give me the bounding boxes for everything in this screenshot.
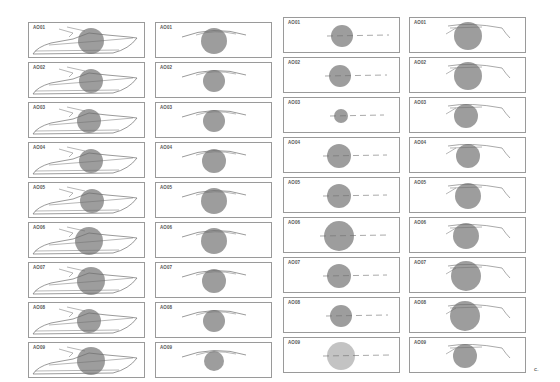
top-view-drawing bbox=[284, 98, 401, 134]
panel-rear-view-ao03: AO03 bbox=[409, 97, 526, 133]
panel-front-view-ao01: AO01 bbox=[155, 22, 272, 58]
panel-top-view-ao02: AO02 bbox=[283, 57, 400, 93]
top-view-drawing bbox=[284, 218, 401, 254]
side-view-boat-drawing bbox=[29, 23, 146, 59]
top-view-drawing bbox=[284, 258, 401, 294]
top-view-drawing bbox=[284, 298, 401, 334]
front-view-drawing bbox=[156, 223, 273, 259]
panel-front-view-ao02: AO02 bbox=[155, 62, 272, 98]
top-view-drawing bbox=[284, 58, 401, 94]
panel-rear-view-ao02: AO02 bbox=[409, 57, 526, 93]
top-view-drawing bbox=[284, 138, 401, 174]
top-view-drawing bbox=[284, 338, 401, 374]
panel-rear-view-ao08: AO08 bbox=[409, 297, 526, 333]
figure-panel-letter: c. bbox=[534, 366, 539, 372]
panel-rear-view-ao04: AO04 bbox=[409, 137, 526, 173]
side-view-boat-drawing bbox=[29, 223, 146, 259]
side-view-boat-drawing bbox=[29, 63, 146, 99]
panel-top-view-ao01: AO01 bbox=[283, 17, 400, 53]
panel-side-view-boat-ao06: AO06 bbox=[28, 222, 145, 258]
rear-view-drawing bbox=[410, 338, 527, 374]
panel-side-view-boat-ao08: AO08 bbox=[28, 302, 145, 338]
panel-side-view-boat-ao05: AO05 bbox=[28, 182, 145, 218]
panel-top-view-ao03: AO03 bbox=[283, 97, 400, 133]
side-view-boat-drawing bbox=[29, 103, 146, 139]
front-view-drawing bbox=[156, 263, 273, 299]
side-view-boat-drawing bbox=[29, 183, 146, 219]
top-view-drawing bbox=[284, 178, 401, 214]
panel-front-view-ao08: AO08 bbox=[155, 302, 272, 338]
panel-front-view-ao07: AO07 bbox=[155, 262, 272, 298]
panel-side-view-boat-ao04: AO04 bbox=[28, 142, 145, 178]
panel-top-view-ao07: AO07 bbox=[283, 257, 400, 293]
rear-view-drawing bbox=[410, 18, 527, 54]
panel-front-view-ao03: AO03 bbox=[155, 102, 272, 138]
panel-front-view-ao05: AO05 bbox=[155, 182, 272, 218]
panel-side-view-boat-ao02: AO02 bbox=[28, 62, 145, 98]
front-view-drawing bbox=[156, 23, 273, 59]
front-view-drawing bbox=[156, 303, 273, 339]
front-view-drawing bbox=[156, 103, 273, 139]
rear-view-drawing bbox=[410, 138, 527, 174]
panel-rear-view-ao06: AO06 bbox=[409, 217, 526, 253]
rear-view-drawing bbox=[410, 178, 527, 214]
front-view-drawing bbox=[156, 143, 273, 179]
panel-top-view-ao08: AO08 bbox=[283, 297, 400, 333]
panel-front-view-ao09: AO09 bbox=[155, 342, 272, 378]
panel-rear-view-ao07: AO07 bbox=[409, 257, 526, 293]
panel-side-view-boat-ao03: AO03 bbox=[28, 102, 145, 138]
side-view-boat-drawing bbox=[29, 143, 146, 179]
rear-view-drawing bbox=[410, 258, 527, 294]
rear-view-drawing bbox=[410, 298, 527, 334]
side-view-boat-drawing bbox=[29, 343, 146, 379]
panel-side-view-boat-ao09: AO09 bbox=[28, 342, 145, 378]
panel-side-view-boat-ao07: AO07 bbox=[28, 262, 145, 298]
panel-rear-view-ao01: AO01 bbox=[409, 17, 526, 53]
front-view-drawing bbox=[156, 63, 273, 99]
rear-view-drawing bbox=[410, 98, 527, 134]
panel-rear-view-ao09: AO09 bbox=[409, 337, 526, 373]
side-view-boat-drawing bbox=[29, 303, 146, 339]
side-view-boat-drawing bbox=[29, 263, 146, 299]
front-view-drawing bbox=[156, 183, 273, 219]
panel-top-view-ao05: AO05 bbox=[283, 177, 400, 213]
rear-view-drawing bbox=[410, 218, 527, 254]
rear-view-drawing bbox=[410, 58, 527, 94]
top-view-drawing bbox=[284, 18, 401, 54]
panel-front-view-ao06: AO06 bbox=[155, 222, 272, 258]
panel-rear-view-ao05: AO05 bbox=[409, 177, 526, 213]
panel-top-view-ao04: AO04 bbox=[283, 137, 400, 173]
panel-front-view-ao04: AO04 bbox=[155, 142, 272, 178]
panel-side-view-boat-ao01: AO01 bbox=[28, 22, 145, 58]
front-view-drawing bbox=[156, 343, 273, 379]
panel-top-view-ao09: AO09 bbox=[283, 337, 400, 373]
panel-top-view-ao06: AO06 bbox=[283, 217, 400, 253]
